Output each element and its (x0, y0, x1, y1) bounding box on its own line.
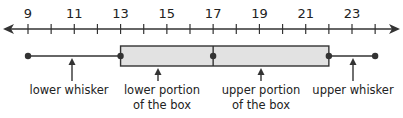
tick-label: 23 (344, 6, 361, 21)
tick-label: 15 (159, 6, 176, 21)
label-upper-whisker: upper whisker (312, 83, 394, 97)
tick-label: 13 (112, 6, 129, 21)
box (121, 46, 329, 66)
label-upper-box-line1: upper portion (222, 83, 300, 97)
number-line: 911131517192123 (3, 6, 400, 34)
label-lower-box-line2: of the box (133, 98, 191, 112)
data-point (25, 53, 31, 59)
tick-label: 9 (24, 6, 32, 21)
label-upper-box-line2: of the box (232, 98, 290, 112)
arrow-upper-whisker-icon (350, 58, 357, 65)
tick-label: 19 (251, 6, 268, 21)
data-point (117, 53, 123, 59)
tick-label: 17 (205, 6, 222, 21)
data-point (210, 53, 216, 59)
data-point (372, 53, 378, 59)
label-lower-whisker: lower whisker (29, 83, 108, 97)
tick-label: 11 (66, 6, 83, 21)
label-lower-box-line1: lower portion (124, 83, 200, 97)
box-plot (25, 46, 379, 66)
tick-label: 21 (297, 6, 314, 21)
box-plot-diagram: 911131517192123 lower whisker lower port… (0, 0, 403, 118)
arrow-upper-box-icon (258, 68, 265, 75)
arrow-lower-box-icon (155, 68, 162, 75)
data-point (326, 53, 332, 59)
arrow-lower-whisker-icon (69, 58, 76, 65)
